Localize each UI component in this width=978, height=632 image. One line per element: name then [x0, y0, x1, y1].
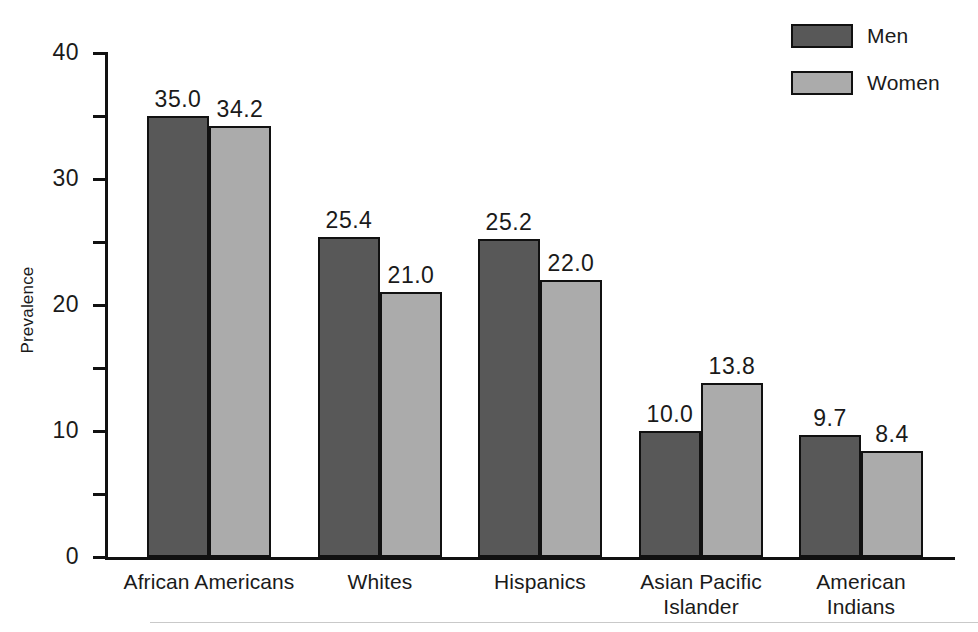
- bar-value-label: 34.2: [217, 96, 264, 123]
- y-tick-minor: [93, 241, 108, 244]
- bar-men: 35.0: [147, 116, 209, 557]
- bar-value-label: 10.0: [647, 401, 694, 428]
- bar-chart: Men Women Prevalence 010203040 35.034.22…: [0, 0, 978, 632]
- scan-artifact-line: [150, 622, 978, 623]
- category-label: African Americans: [124, 569, 295, 594]
- bar-value-label: 25.4: [326, 207, 373, 234]
- bar-value-label: 25.2: [486, 209, 533, 236]
- bar-women: 13.8: [701, 383, 763, 557]
- y-tick-label: 0: [66, 542, 79, 569]
- bar-women: 21.0: [380, 292, 442, 557]
- bar-women: 8.4: [861, 451, 923, 557]
- y-tick-minor: [93, 367, 108, 370]
- y-tick-major: 20: [93, 304, 108, 307]
- x-axis-line: [105, 557, 955, 560]
- bar-men: 25.4: [318, 237, 380, 557]
- y-tick-label: 40: [52, 38, 79, 65]
- category-label: Hispanics: [494, 569, 586, 594]
- legend-swatch-men: [791, 24, 853, 48]
- y-tick-label: 30: [52, 164, 79, 191]
- y-tick-label: 20: [52, 290, 79, 317]
- bar-women: 34.2: [209, 126, 271, 557]
- bar-value-label: 21.0: [388, 262, 435, 289]
- bar-value-label: 9.7: [813, 405, 846, 432]
- legend-label-men: Men: [867, 20, 908, 52]
- y-tick-major: 10: [93, 430, 108, 433]
- bar-value-label: 13.8: [709, 353, 756, 380]
- plot-area: 010203040 35.034.225.421.025.222.010.013…: [105, 53, 955, 557]
- bar-women: 22.0: [540, 280, 602, 557]
- category-label: American Indians: [814, 569, 908, 619]
- category-label: Asian Pacific Islander: [640, 569, 762, 619]
- y-tick-minor: [93, 115, 108, 118]
- y-axis-label: Prevalence: [18, 240, 38, 380]
- bar-value-label: 22.0: [548, 250, 595, 277]
- category-label: Whites: [348, 569, 413, 594]
- bar-value-label: 8.4: [875, 421, 908, 448]
- y-tick-major: 40: [93, 52, 108, 55]
- bar-men: 10.0: [639, 431, 701, 557]
- bar-men: 9.7: [799, 435, 861, 557]
- y-tick-major: 0: [93, 556, 108, 559]
- bar-men: 25.2: [478, 239, 540, 557]
- y-tick-label: 10: [52, 416, 79, 443]
- y-tick-minor: [93, 493, 108, 496]
- y-tick-major: 30: [93, 178, 108, 181]
- bar-value-label: 35.0: [155, 86, 202, 113]
